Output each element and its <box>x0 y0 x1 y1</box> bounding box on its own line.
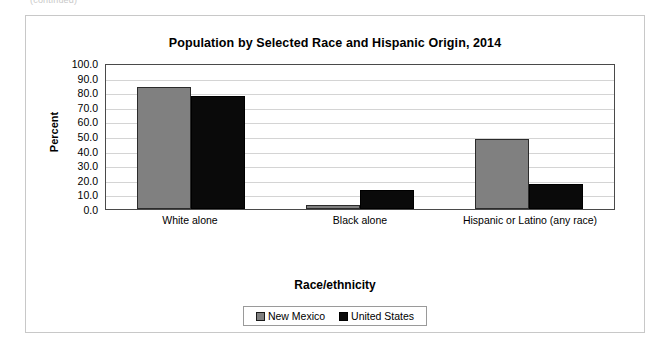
plot-area-wrapper: Percent 100.090.080.070.060.050.040.030.… <box>26 64 646 234</box>
square-swatch-black <box>339 312 348 321</box>
bar-united-states[interactable] <box>191 96 245 209</box>
bar-group <box>106 65 275 209</box>
legend-item-label: United States <box>351 310 414 322</box>
x-axis-tick-label: Black alone <box>275 214 445 226</box>
y-axis-tick-label: 90.0 <box>78 73 98 85</box>
bar-group <box>275 65 444 209</box>
legend-item[interactable]: New Mexico <box>256 310 325 322</box>
y-axis-tick-label: 60.0 <box>78 116 98 128</box>
bar-groups <box>106 65 614 209</box>
y-axis-tick-label: 10.0 <box>78 189 98 201</box>
y-axis-tick-label: 70.0 <box>78 102 98 114</box>
chart-legend: New MexicoUnited States <box>243 306 427 326</box>
bar-new-mexico[interactable] <box>306 205 360 209</box>
y-axis-ticks: 100.090.080.070.060.050.040.030.020.010.… <box>54 64 102 210</box>
cut-off-header-text: (continued) <box>0 0 667 12</box>
y-axis-tick-label: 50.0 <box>78 131 98 143</box>
chart-figure: Population by Selected Race and Hispanic… <box>25 15 645 333</box>
x-axis-tick-label: White alone <box>105 214 275 226</box>
bar-new-mexico[interactable] <box>137 87 191 209</box>
x-axis-tick-label: Hispanic or Latino (any race) <box>445 214 615 226</box>
bar-group <box>445 65 614 209</box>
y-axis-tick-label: 20.0 <box>78 175 98 187</box>
x-axis-label: Race/ethnicity <box>26 278 644 292</box>
cut-off-header-label: (continued) <box>30 0 667 5</box>
square-swatch-gray <box>256 312 265 321</box>
bar-new-mexico[interactable] <box>475 139 529 209</box>
legend-item-label: New Mexico <box>268 310 325 322</box>
bar-united-states[interactable] <box>360 190 414 209</box>
y-axis-tick-label: 80.0 <box>78 87 98 99</box>
legend-item[interactable]: United States <box>339 310 414 322</box>
plot-area <box>105 64 615 210</box>
x-axis-tick-labels: White aloneBlack aloneHispanic or Latino… <box>105 214 615 226</box>
y-axis-tick-label: 30.0 <box>78 160 98 172</box>
chart-title: Population by Selected Race and Hispanic… <box>26 36 644 50</box>
y-axis-tick-label: 0.0 <box>83 204 98 216</box>
y-axis-tick-label: 100.0 <box>72 58 98 70</box>
y-axis-tick-label: 40.0 <box>78 146 98 158</box>
bar-united-states[interactable] <box>529 184 583 209</box>
